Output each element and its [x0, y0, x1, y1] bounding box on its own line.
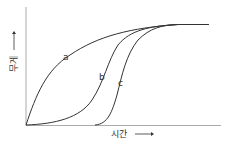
x-axis-label: 시간: [111, 129, 127, 139]
curve-c: [95, 25, 178, 126]
weight-time-diagram: a b c 시간 무게: [0, 0, 231, 146]
curve-label-a: a: [63, 52, 69, 62]
x-arrow-icon: [151, 132, 154, 136]
curve-label-c: c: [118, 78, 123, 88]
y-arrow-icon: [12, 31, 16, 34]
curve-label-b: b: [99, 72, 105, 82]
curve-a: [26, 25, 209, 126]
y-axis-label: 무게: [9, 56, 19, 72]
